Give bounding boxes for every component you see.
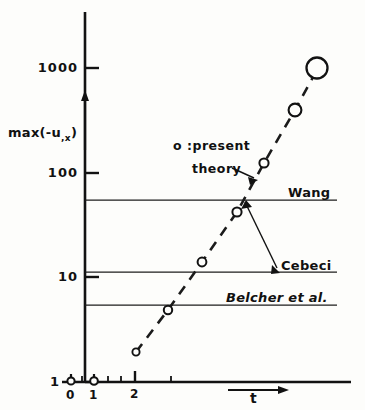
data-point-marker [132,348,139,355]
legend-note-theory: theory [192,161,241,176]
y-tick-label-1000: 1000 [16,60,78,75]
data-point-marker [67,377,74,384]
data-point-marker [307,58,328,79]
x-tick-label-2: 2 [130,387,139,401]
x-axis-title: t [250,390,257,406]
data-point-marker [164,306,172,314]
x-tick-label-1: 1 [89,388,98,402]
y-tick-label-1: 1 [16,374,60,389]
cebeci-pointer-shaft [245,202,277,268]
data-point-marker [198,258,207,267]
y-axis-title: max(-u,x) [8,125,77,143]
x-axis-arrow-head [278,386,289,394]
x-tick-label-0: 0 [66,388,75,402]
y-tick-label-100: 100 [16,165,78,180]
legend-note-present: o :present [173,138,250,153]
data-point-marker [90,377,98,385]
data-point-marker [232,207,241,216]
figure-scatter-log-plot: 1000 100 10 1 max(-u,x) 0 1 2 t o :prese… [0,0,365,410]
reference-label-cebeci: Cebeci [281,258,331,273]
y-axis-title-suffix: ) [71,125,77,140]
reference-label-wang: Wang [288,185,330,200]
y-axis-arrow-head [81,90,89,101]
y-axis-title-subscript: ,x [61,133,71,143]
data-point-marker [259,158,268,167]
reference-label-belcher: Belcher et al. [226,290,328,305]
y-tick-label-10: 10 [16,269,78,284]
data-point-marker [289,104,302,117]
y-axis-title-prefix: max(-u [8,125,61,140]
